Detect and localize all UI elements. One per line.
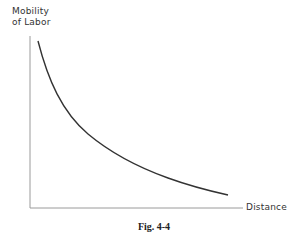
y-axis-label-line1: Mobility bbox=[12, 6, 51, 17]
mobility-curve bbox=[38, 41, 228, 195]
figure: Mobility of Labor Distance Fig. 4-4 bbox=[0, 0, 300, 234]
x-axis-label: Distance bbox=[246, 202, 287, 212]
y-axis-label: Mobility of Labor bbox=[12, 6, 51, 28]
figure-caption-text: Fig. 4-4 bbox=[138, 221, 170, 232]
chart-canvas bbox=[0, 0, 300, 234]
figure-caption: Fig. 4-4 bbox=[0, 221, 300, 232]
y-axis-label-line2: of Labor bbox=[12, 17, 51, 28]
